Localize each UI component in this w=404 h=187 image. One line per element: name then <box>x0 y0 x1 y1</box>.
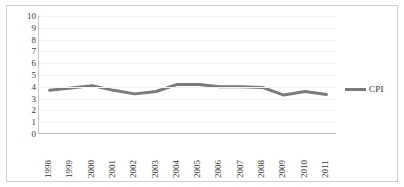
y-axis-tick-label: 2 <box>14 105 36 115</box>
x-axis: 1998199920002001200220032004200520062007… <box>38 136 336 180</box>
gridline <box>39 75 336 76</box>
gridline <box>39 40 336 41</box>
x-axis-tick-label: 2007 <box>235 136 246 178</box>
legend-label-cpi: CPI <box>369 84 384 94</box>
x-axis-tick-label: 2004 <box>171 136 182 178</box>
x-axis-tick-label: 2000 <box>86 136 97 178</box>
gridline <box>39 16 336 17</box>
legend-swatch-cpi <box>345 88 366 91</box>
gridline <box>39 99 336 100</box>
x-axis-tick-label: 2008 <box>256 136 267 178</box>
legend: CPI <box>345 84 384 94</box>
y-axis-tick-label: 10 <box>14 11 36 21</box>
gridline <box>39 122 336 123</box>
gridline <box>39 87 336 88</box>
x-axis-tick-label: 1998 <box>43 136 54 178</box>
y-axis: 012345678910 <box>14 10 36 134</box>
x-axis-tick-label: 2009 <box>277 136 288 178</box>
chart-container: 012345678910 199819992000200120022003200… <box>0 0 404 187</box>
x-axis-tick-label: 2002 <box>128 136 139 178</box>
gridline <box>39 110 336 111</box>
y-axis-tick-label: 7 <box>14 46 36 56</box>
x-axis-tick-label: 1999 <box>64 136 75 178</box>
y-axis-tick-label: 8 <box>14 35 36 45</box>
gridline <box>39 51 336 52</box>
y-axis-tick-label: 3 <box>14 94 36 104</box>
x-axis-tick-label: 2010 <box>299 136 310 178</box>
plot-area <box>38 16 336 134</box>
y-axis-tick-label: 5 <box>14 70 36 80</box>
y-axis-tick-label: 1 <box>14 117 36 127</box>
x-axis-tick-label: 2003 <box>150 136 161 178</box>
y-axis-tick-label: 9 <box>14 23 36 33</box>
x-axis-tick-label: 2001 <box>107 136 118 178</box>
x-axis-tick-label: 2005 <box>192 136 203 178</box>
gridline <box>39 63 336 64</box>
y-axis-tick-label: 0 <box>14 129 36 139</box>
gridline <box>39 28 336 29</box>
x-axis-tick-label: 2011 <box>320 136 331 178</box>
y-axis-tick-label: 4 <box>14 82 36 92</box>
x-axis-tick-label: 2006 <box>213 136 224 178</box>
y-axis-tick-label: 6 <box>14 58 36 68</box>
